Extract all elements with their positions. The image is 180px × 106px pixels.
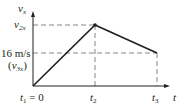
tick-t3: t3: [152, 92, 159, 105]
tick-t1: t1 = 0: [20, 92, 44, 105]
tick-v3x: (v3x): [8, 60, 27, 73]
y-axis-label: vx: [18, 3, 26, 16]
tick-16ms: 16 m/s: [1, 48, 31, 59]
tick-v2x: v2x: [14, 19, 26, 32]
velocity-time-chart: vx v2x 16 m/s (v3x) t1 = 0 t2 t3 t: [0, 0, 180, 106]
tick-t2: t2: [90, 92, 97, 105]
x-axis-arrow-icon: [164, 84, 170, 88]
peak-point: [93, 23, 97, 27]
x-axis-label: t: [173, 92, 176, 103]
y-axis-arrow-icon: [31, 11, 35, 17]
